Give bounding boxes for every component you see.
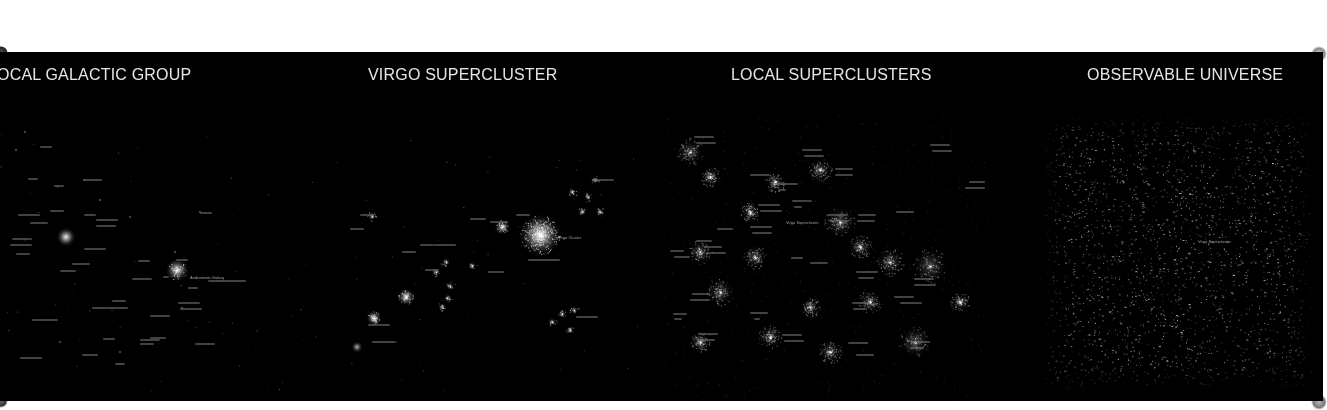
object-label-placeholder (696, 142, 716, 144)
object-label-placeholder (848, 342, 868, 344)
object-label-placeholder (84, 214, 96, 216)
object-label-placeholder (368, 324, 390, 326)
object-label-placeholder (792, 200, 812, 202)
superclusters-field (660, 52, 1030, 401)
object-label-placeholder (82, 354, 98, 356)
object-label-placeholder (752, 232, 772, 234)
panel-title: VIRGO SUPERCLUSTER (368, 66, 557, 84)
object-label-placeholder (176, 259, 188, 261)
object-label-placeholder (180, 308, 202, 310)
object-label-placeholder (516, 214, 530, 216)
object-label-placeholder (782, 334, 802, 336)
object-label-placeholder (858, 277, 874, 279)
panel-local-galactic-group: OCAL GALACTIC GROUP Andromeda Galaxy (0, 52, 330, 401)
object-label-placeholder (794, 206, 802, 208)
object-label-placeholder (969, 181, 985, 183)
object-label-placeholder (372, 341, 396, 343)
object-label-placeholder (60, 270, 76, 272)
object-label-placeholder (717, 228, 733, 230)
object-label-placeholder (896, 211, 914, 213)
object-label-placeholder (150, 315, 170, 317)
object-label-placeholder (20, 357, 42, 359)
object-label-placeholder (32, 319, 58, 321)
object-label-placeholder (694, 136, 714, 138)
object-label-placeholder (692, 293, 710, 295)
object-label-placeholder (18, 214, 40, 216)
object-label-placeholder (914, 284, 936, 286)
object-label-placeholder (96, 219, 118, 221)
object-label-placeholder (835, 168, 853, 170)
object-label-placeholder (778, 189, 786, 191)
object-label-placeholder (910, 341, 930, 343)
object-label-placeholder (132, 278, 152, 280)
universe-field (1030, 52, 1323, 401)
object-label-placeholder (706, 252, 726, 254)
object-label-placeholder (965, 187, 985, 189)
object-label: Virgo Supercluster (1198, 239, 1231, 244)
object-label-placeholder (490, 221, 508, 223)
object-label-placeholder (40, 146, 52, 148)
object-label-placeholder (856, 354, 874, 356)
object-label-placeholder (12, 238, 32, 240)
object-label-placeholder (750, 226, 772, 228)
object-label-placeholder (760, 210, 782, 212)
object-label-placeholder (434, 244, 456, 246)
object-label-placeholder (28, 178, 38, 180)
object-label-placeholder (930, 144, 950, 146)
object-label-placeholder (92, 307, 128, 309)
object-label-placeholder (96, 225, 116, 227)
object-label-placeholder (10, 244, 32, 246)
panel-local-superclusters: LOCAL SUPERCLUSTERS Virgo Supercluster (660, 52, 1030, 401)
object-label: Virgo Supercluster (786, 220, 819, 225)
object-label-placeholder (758, 204, 780, 206)
object-label-placeholder (420, 244, 434, 246)
object-label-placeholder (488, 271, 504, 273)
object-label-placeholder (853, 308, 867, 310)
object-label-placeholder (835, 174, 853, 176)
cosmic-scale-strip: OCAL GALACTIC GROUP Andromeda Galaxy VIR… (0, 52, 1323, 401)
object-label-placeholder (754, 318, 760, 320)
object-label-placeholder (827, 214, 847, 216)
object-label-placeholder (140, 339, 160, 341)
object-label-placeholder (576, 316, 598, 318)
panel-title: OBSERVABLE UNIVERSE (1087, 66, 1283, 84)
object-label-placeholder (30, 222, 48, 224)
object-label-placeholder (673, 313, 687, 315)
panel-observable-universe: OBSERVABLE UNIVERSE Virgo Supercluster (1030, 52, 1323, 401)
object-label-placeholder (776, 183, 798, 185)
object-label-placeholder (697, 339, 715, 341)
object-label-placeholder (425, 269, 439, 271)
object-label-placeholder (852, 302, 870, 304)
object-label-placeholder (140, 343, 154, 345)
object-label-placeholder (112, 300, 126, 302)
object-label-placeholder (857, 220, 875, 222)
object-label-placeholder (804, 155, 824, 157)
object-label-placeholder (470, 218, 486, 220)
object-label-placeholder (802, 149, 822, 151)
object-label-placeholder (910, 347, 924, 349)
object-label-placeholder (810, 262, 828, 264)
object-label-placeholder (894, 296, 914, 298)
object-label-placeholder (704, 246, 722, 248)
object-label-placeholder (402, 251, 416, 253)
object-label-placeholder (528, 259, 560, 261)
object-label-placeholder (674, 318, 682, 320)
object-label-placeholder (16, 253, 30, 255)
object-label-placeholder (178, 302, 200, 304)
panel-title: OCAL GALACTIC GROUP (0, 66, 191, 84)
object-label-placeholder (900, 302, 922, 304)
object-label-placeholder (84, 179, 102, 181)
object-label-placeholder (856, 271, 878, 273)
object-label-placeholder (188, 287, 198, 289)
object-label-placeholder (84, 248, 106, 250)
object-label-placeholder (350, 228, 364, 230)
object-label-placeholder (829, 220, 849, 222)
object-label-placeholder (674, 256, 690, 258)
object-label-placeholder (690, 299, 710, 301)
panel-virgo-supercluster: VIRGO SUPERCLUSTER Virgo Cluster (330, 52, 660, 401)
object-label-placeholder (72, 263, 90, 265)
object-label-placeholder (791, 257, 803, 259)
object-label-placeholder (115, 363, 125, 365)
panel-title: LOCAL SUPERCLUSTERS (731, 66, 932, 84)
virgo-starfield (330, 52, 660, 401)
